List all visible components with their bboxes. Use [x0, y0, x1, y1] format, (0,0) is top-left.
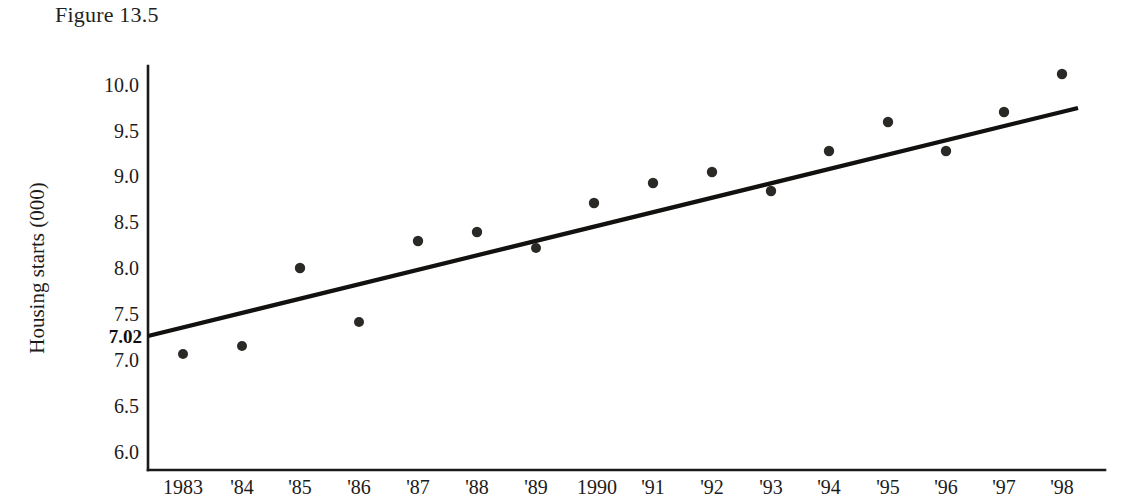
- x-tick-label-1995: '95: [876, 476, 900, 498]
- data-point: [413, 236, 423, 246]
- data-point: [531, 243, 541, 253]
- x-tick-label-1993: '93: [759, 476, 783, 498]
- y-tick-label-9-5: 9.5: [114, 120, 139, 142]
- x-tick-label-1998: '98: [1050, 476, 1074, 498]
- y-tick-label-7-5: 7.5: [114, 303, 139, 325]
- x-tick-label-1985: '85: [288, 476, 312, 498]
- y-tick-label-8-5: 8.5: [114, 211, 139, 233]
- x-tick-label-1986: '86: [347, 476, 371, 498]
- x-tick-label-1988: '88: [465, 476, 489, 498]
- x-tick-label-1983: 1983: [163, 476, 203, 498]
- data-point: [999, 107, 1009, 117]
- data-point: [883, 117, 893, 127]
- data-point: [766, 186, 776, 196]
- x-tick-label-1996: '96: [934, 476, 958, 498]
- x-tick-label-1992: '92: [700, 476, 724, 498]
- data-point: [941, 146, 951, 156]
- x-tick-label-1990: 1990: [577, 476, 617, 498]
- data-point: [178, 349, 188, 359]
- data-point: [237, 341, 247, 351]
- data-point: [1057, 69, 1067, 79]
- x-tick-label-1984: '84: [230, 476, 254, 498]
- data-point: [648, 178, 658, 188]
- y-tick-label-10-0: 10.0: [104, 74, 139, 96]
- intercept-annotation-label: 7.02: [109, 326, 142, 347]
- y-tick-label-6-0: 6.0: [114, 441, 139, 463]
- data-point: [589, 198, 599, 208]
- x-tick-label-1987: '87: [406, 476, 430, 498]
- y-axis-title: Housing starts (000): [25, 182, 49, 354]
- x-tick-label-1991: '91: [641, 476, 665, 498]
- data-point: [824, 146, 834, 156]
- y-tick-label-9-0: 9.0: [114, 165, 139, 187]
- y-tick-label-8-0: 8.0: [114, 257, 139, 279]
- x-tick-label-1994: '94: [817, 476, 841, 498]
- data-point: [295, 263, 305, 273]
- figure-container: Figure 13.5 Housing starts (000) 10.0 9.…: [0, 0, 1136, 502]
- data-point: [707, 167, 717, 177]
- trend-line: [148, 108, 1078, 336]
- y-tick-label-6-5: 6.5: [114, 395, 139, 417]
- x-tick-label-1997: '97: [992, 476, 1016, 498]
- y-tick-label-7-0: 7.0: [114, 349, 139, 371]
- x-tick-label-1989: '89: [524, 476, 548, 498]
- scatter-chart: Housing starts (000) 10.0 9.5 9.0 8.5 8.…: [0, 0, 1136, 502]
- data-point: [354, 317, 364, 327]
- data-point: [472, 227, 482, 237]
